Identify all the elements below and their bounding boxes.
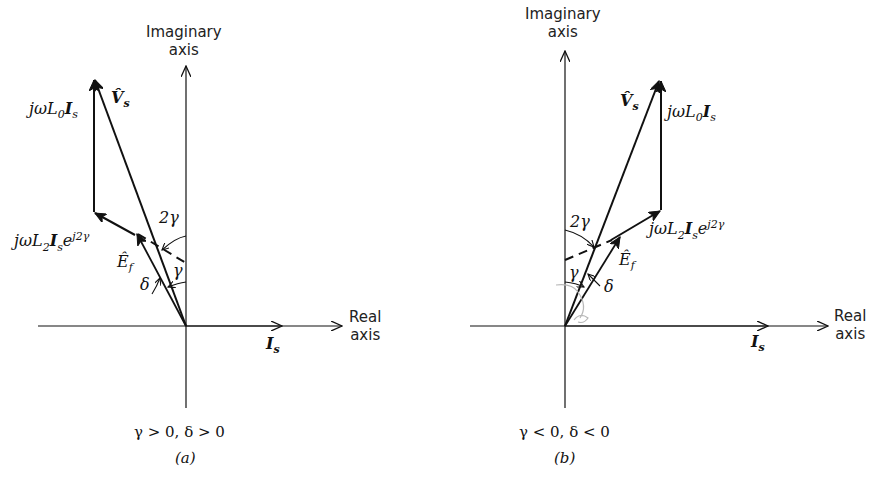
angle-2gamma-label-b: 2γ — [570, 214, 590, 230]
ef-label-b: Êf — [619, 252, 635, 271]
l2-label-b: jωL2Isej2γ — [649, 219, 724, 241]
angle-arc-delta-a — [152, 278, 160, 294]
vs-label-b: V̂s — [620, 93, 639, 112]
imaginary-axis-label-b: Imaginary axis — [525, 7, 601, 40]
angle-arc-2gamma-b — [565, 230, 594, 247]
condition-b: γ < 0, δ < 0 — [519, 425, 610, 440]
real-label-line2: axis — [834, 327, 866, 342]
imaginary-label-line2: axis — [525, 25, 601, 40]
real-axis-label-b: Real axis — [834, 309, 866, 342]
imaginary-label-line1: Imaginary — [525, 7, 601, 22]
condition-a: γ > 0, δ > 0 — [134, 425, 225, 440]
l0-label-b: jωL0Is — [667, 104, 716, 123]
real-label-line2: axis — [349, 328, 381, 343]
imaginary-axis-label-a: Imaginary axis — [146, 25, 222, 58]
caption-a: (a) — [175, 451, 196, 466]
angle-2gamma-label-a: 2γ — [159, 210, 179, 226]
angle-delta-label-a: δ — [140, 277, 150, 293]
real-axis-label-a: Real axis — [349, 310, 381, 343]
dashed-reference-b — [565, 240, 612, 260]
l2-phasor-a — [95, 213, 135, 235]
l2-label-a: jωL2Isej2γ — [14, 231, 89, 253]
ef-label-a: Êf — [117, 254, 133, 273]
l0-label-a: jωL0Is — [29, 101, 78, 120]
vs-label-a: V̂s — [111, 90, 130, 109]
current-label-b: Is — [751, 334, 765, 353]
angle-arc-2gamma-a — [162, 236, 186, 250]
pencil-annotation — [556, 285, 588, 323]
imaginary-label-line1: Imaginary — [146, 25, 222, 40]
angle-gamma-label-b: γ — [569, 265, 579, 281]
caption-b: (b) — [554, 451, 575, 466]
phasor-diagrams — [0, 0, 888, 494]
real-label-line1: Real — [834, 309, 866, 324]
imaginary-label-line2: axis — [146, 43, 222, 58]
angle-gamma-label-a: γ — [173, 263, 183, 279]
angle-delta-label-b: δ — [604, 279, 614, 295]
current-label-a: Is — [266, 336, 280, 355]
real-label-line1: Real — [349, 310, 381, 325]
